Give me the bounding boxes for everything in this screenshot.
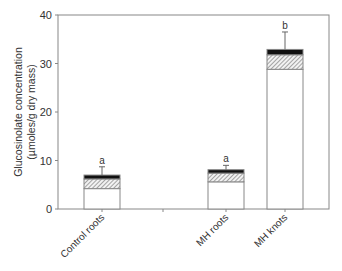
bar-segment <box>267 69 303 209</box>
x-axis: Control rootsMH rootsMH knots <box>58 209 289 260</box>
bar-segment <box>267 55 303 70</box>
bar-segment <box>208 182 244 209</box>
chart-canvas: 010203040 Glucosinolate concentration (µ… <box>0 0 342 271</box>
y-axis: 010203040 <box>40 9 58 215</box>
significance-letter: a <box>99 155 105 166</box>
bar-segment <box>84 179 120 189</box>
bar-segment <box>84 175 120 179</box>
bar-segment <box>84 189 120 209</box>
y-axis-label: Glucosinolate concentration (µmoles/g dr… <box>12 47 37 177</box>
y-tick-label: 40 <box>40 9 52 21</box>
y-tick-label: 0 <box>46 203 52 215</box>
bar-group: a <box>84 155 120 209</box>
y-tick-label: 30 <box>40 58 52 70</box>
bar-segment <box>208 170 244 173</box>
y-tick-label: 10 <box>40 155 52 167</box>
bar-segment <box>208 173 244 182</box>
significance-letter: b <box>282 20 288 31</box>
y-axis-units: (µmoles/g dry mass) <box>25 64 37 159</box>
significance-letter: a <box>223 153 229 164</box>
bars: aab <box>84 20 303 209</box>
bar-group: a <box>208 153 244 209</box>
bar-segment <box>267 49 303 54</box>
x-tick-label: MH knots <box>252 212 290 250</box>
x-tick-label: MH roots <box>194 212 230 248</box>
bar-group: b <box>267 20 303 209</box>
x-tick-label: Control roots <box>58 212 106 260</box>
y-axis-title: Glucosinolate concentration <box>12 47 24 177</box>
y-tick-label: 20 <box>40 106 52 118</box>
